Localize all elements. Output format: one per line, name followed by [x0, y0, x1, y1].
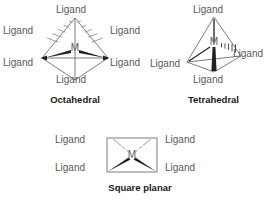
square-planar-ligand-label-upper-right: Ligand — [165, 134, 195, 145]
tetrahedral-caption: Tetrahedral — [150, 94, 277, 105]
octahedral-ligand-label-upper-right: Ligand — [110, 25, 140, 36]
square-planar-diagram: Ligand Ligand Ligand Ligand M Square pla… — [55, 120, 225, 209]
tetrahedron-edge-bottom-left — [187, 62, 214, 72]
square-planar-caption: Square planar — [55, 182, 225, 193]
octahedral-caption: Octahedral — [0, 94, 150, 105]
square-planar-ligand-label-upper-left: Ligand — [55, 134, 85, 145]
solid-wedge-lower-right — [134, 158, 157, 172]
hashed-wedge-upper-left — [48, 21, 73, 42]
square-planar-ligand-label-lower-right: Ligand — [165, 162, 195, 173]
square-planar-geometry-svg: M — [103, 134, 161, 176]
tetrahedral-geometry-svg: M — [183, 14, 245, 76]
octahedral-center-atom-label: M — [71, 42, 79, 53]
solid-wedge-bottom — [211, 47, 216, 71]
tetrahedral-diagram: Ligand Ligand Ligand Ligand M Tetrahedra… — [150, 0, 277, 112]
octahedral-diagram: Ligand Ligand Ligand Ligand Ligand Ligan… — [0, 0, 150, 112]
tetrahedral-center-atom-label: M — [210, 36, 218, 47]
hashed-wedge-upper-left — [114, 140, 128, 152]
octahedral-ligand-label-lower-left: Ligand — [3, 57, 33, 68]
square-planar-ligand-label-lower-left: Ligand — [55, 162, 85, 173]
hashed-wedge-upper-right — [136, 140, 150, 152]
tetrahedral-ligand-label-left: Ligand — [150, 58, 180, 69]
hashed-wedge-upper-right — [78, 21, 103, 42]
octahedral-geometry-svg: M — [38, 14, 112, 86]
octahedral-ligand-label-upper-left: Ligand — [3, 25, 33, 36]
square-planar-center-atom-label: M — [128, 149, 136, 160]
octahedral-ligand-label-lower-right: Ligand — [110, 57, 140, 68]
